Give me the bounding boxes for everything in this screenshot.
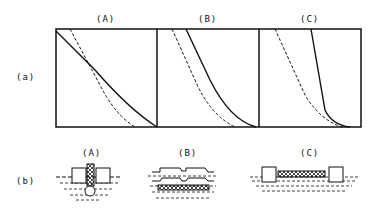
diagram-a [56,164,120,200]
curve-panels [56,29,361,127]
figure-graphics [0,0,377,211]
diagram-c [250,167,360,191]
diagram-b [148,168,216,198]
